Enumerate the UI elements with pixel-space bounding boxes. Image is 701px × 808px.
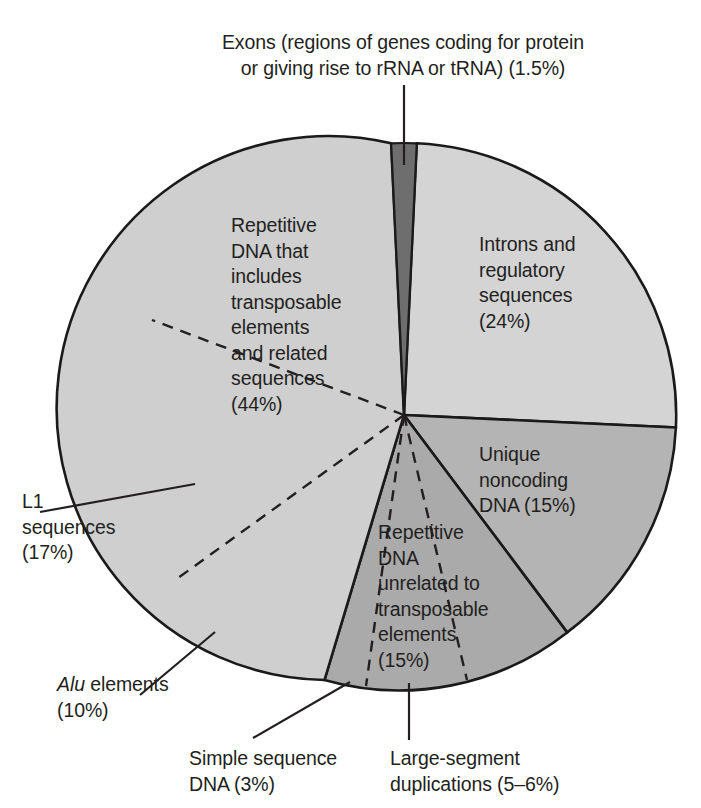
label-alu-elements: Alu elements (10%) [57, 672, 169, 723]
label-l1-sequences: L1 sequences (17%) [22, 489, 115, 566]
genome-composition-pie-figure: Exons (regions of genes coding for prote… [0, 0, 701, 808]
label-unique-noncoding: Unique noncoding DNA (15%) [479, 442, 576, 519]
label-exons: Exons (regions of genes coding for prote… [178, 30, 628, 81]
label-simple-sequence-dna: Simple sequence DNA (3%) [189, 746, 337, 797]
label-alu-italic: Alu [57, 673, 85, 695]
leader-line-simple-sequence [253, 682, 350, 738]
label-large-segment-duplications: Large-segment duplications (5–6%) [390, 746, 559, 797]
label-introns-regulatory: Introns and regulatory sequences (24%) [479, 232, 575, 334]
label-repetitive-transposable: Repetitive DNA that includes transposabl… [231, 213, 341, 417]
label-repetitive-unrelated: Repetitive DNA unrelated to transposable… [378, 520, 488, 673]
